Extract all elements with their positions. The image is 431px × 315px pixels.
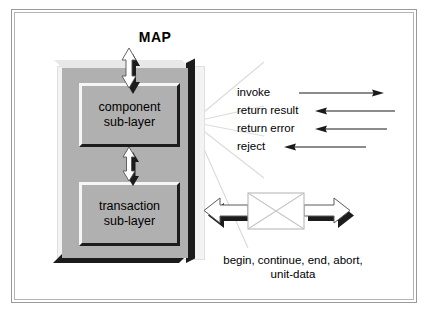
component-sublayer-label-line2: sub-layer bbox=[104, 115, 155, 130]
primitives-caption: begin, continue, end, abort, unit-data bbox=[213, 253, 373, 281]
transaction-sublayer-label-line1: transaction bbox=[99, 199, 160, 214]
page-title: MAP bbox=[110, 29, 200, 45]
signal-label-return-error: return error bbox=[237, 122, 295, 134]
transaction-sublayer-label-line2: sub-layer bbox=[104, 214, 155, 229]
signal-label-return-result: return result bbox=[237, 104, 298, 116]
arrow-left-icon bbox=[315, 105, 395, 117]
transaction-sublayer-box: transaction sub-layer bbox=[79, 182, 180, 246]
signal-row-return-result: return result bbox=[237, 104, 397, 120]
primitives-caption-line2: unit-data bbox=[213, 267, 373, 281]
signal-list: invoke return result return error reject bbox=[237, 86, 397, 158]
signal-label-reject: reject bbox=[237, 140, 265, 152]
signal-row-return-error: return error bbox=[237, 122, 397, 138]
double-headed-vertical-arrow-icon bbox=[120, 48, 150, 94]
arrow-right-icon bbox=[299, 87, 384, 99]
double-headed-vertical-arrow-icon-middle bbox=[120, 147, 150, 187]
signal-row-reject: reject bbox=[237, 140, 397, 156]
signal-row-invoke: invoke bbox=[237, 86, 397, 102]
diagram-canvas: MAP component sub-layer transaction sub-… bbox=[0, 0, 431, 315]
arrow-left-icon-3 bbox=[284, 141, 366, 153]
primitives-caption-line1: begin, continue, end, abort, bbox=[213, 253, 373, 267]
double-headed-horizontal-arrow-icon bbox=[186, 190, 378, 250]
signal-label-invoke: invoke bbox=[237, 86, 270, 98]
arrow-left-icon-2 bbox=[315, 123, 387, 135]
component-sublayer-label-line1: component bbox=[99, 100, 161, 115]
